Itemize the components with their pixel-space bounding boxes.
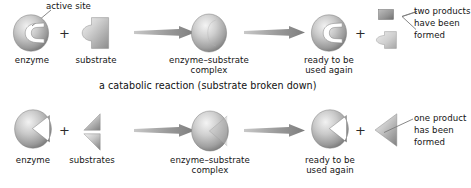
enzyme-substrate-complex-shape-row2	[190, 110, 230, 152]
substrate-triangle-upper-shape	[83, 113, 101, 131]
plus-operator-row2-a: +	[59, 124, 70, 137]
substrate-triangle-lower-shape	[83, 133, 101, 151]
two-products-label-line3: formed	[414, 30, 445, 40]
one-product-leader-line	[382, 118, 414, 134]
enzyme-label-row1: enzyme	[4, 55, 60, 65]
two-products-label-line1: two products	[414, 6, 471, 16]
plus-operator-row2-b: +	[355, 124, 366, 137]
two-products-label-line2: have been	[414, 18, 460, 28]
plus-operator-row1-b: +	[355, 27, 366, 40]
enzyme-reaction-diagram: active site enzyme + substrate enzyme–su…	[0, 0, 471, 188]
ready-label-row1-line2: used again	[289, 65, 369, 75]
ready-label-row2-line1: ready to be	[290, 155, 370, 165]
substrate-label-row1: substrate	[66, 55, 126, 65]
reaction-arrow-row1-b	[244, 26, 306, 39]
one-product-label-line3: formed	[414, 137, 445, 147]
complex-label-row1-line2: complex	[157, 65, 261, 75]
reaction-arrow-row2-a	[134, 124, 196, 137]
active-site-label: active site	[46, 1, 91, 11]
ready-label-row2-line2: used again	[290, 165, 370, 175]
one-product-label-line1: one product	[414, 113, 466, 123]
enzyme-shape-row2	[13, 109, 53, 149]
enzyme-shape-row1	[12, 14, 50, 52]
reaction-arrow-row1-a	[134, 26, 196, 39]
enzyme-label-row2: enzyme	[5, 155, 61, 165]
complex-label-row1-line1: enzyme–substrate	[157, 55, 261, 65]
complex-label-row2-line2: complex	[158, 165, 262, 175]
reaction-arrow-row2-b	[244, 124, 306, 137]
complex-label-row2-line1: enzyme–substrate	[158, 155, 262, 165]
enzyme-substrate-complex-shape-row1	[190, 13, 228, 53]
one-product-label-line2: has been	[414, 125, 454, 135]
substrate-shape-row1	[80, 17, 110, 49]
reusable-enzyme-shape-row2	[310, 109, 350, 149]
reusable-enzyme-shape-row1	[310, 14, 348, 52]
ready-label-row1-line1: ready to be	[289, 55, 369, 65]
plus-operator-row1-a: +	[59, 27, 70, 40]
catabolic-reaction-caption: a catabolic reaction (substrate broken d…	[99, 80, 317, 91]
substrates-label-row2: substrates	[62, 155, 122, 165]
